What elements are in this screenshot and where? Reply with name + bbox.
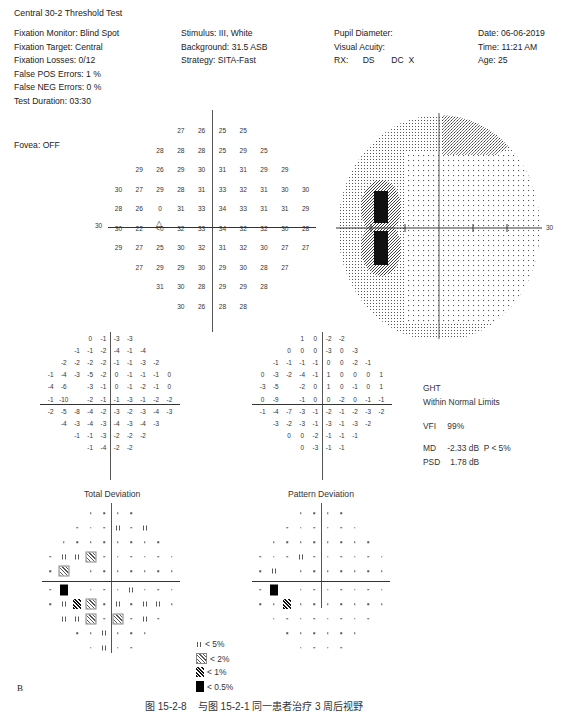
grid-value: 30: [274, 225, 296, 232]
p2-symbol-icon: [85, 551, 96, 562]
p5-symbol-icon: [74, 554, 80, 559]
grid-value: <0: [149, 225, 171, 232]
grid-value: 33: [191, 225, 213, 232]
grid-value: 31: [232, 166, 254, 173]
p2-symbol-icon: [58, 566, 69, 577]
grid-value: 27: [274, 264, 296, 271]
grid-value: 32: [253, 225, 275, 232]
normal-dot-icon: [354, 589, 356, 591]
normal-dot-icon: [117, 647, 119, 649]
normal-dot-icon: [341, 541, 343, 543]
grid-value: 1: [373, 383, 389, 390]
grid-value: 34: [211, 205, 233, 212]
p5-symbol-icon: [298, 554, 304, 559]
grid-value: 27: [295, 244, 317, 251]
grid-value: 29: [128, 166, 150, 173]
p05-symbol-icon: [270, 584, 278, 595]
greyscale-plot-icon: [336, 113, 542, 339]
normal-dot-icon: [260, 589, 262, 591]
normal-dot-icon: [144, 632, 146, 634]
normal-dot-icon: [117, 556, 119, 558]
grid-value: 33: [211, 186, 233, 193]
normal-dot-icon: [381, 556, 383, 558]
grid-value: 30: [170, 244, 192, 251]
normal-dot-icon: [77, 541, 79, 543]
normal-dot-icon: [314, 527, 316, 529]
figure-caption: 图 15-2-8 与图 15-2-1 同一患者治疗 3 周后视野: [145, 698, 363, 713]
normal-dot-icon: [327, 512, 329, 514]
normal-dot-icon: [158, 618, 160, 620]
normal-dot-icon: [171, 603, 173, 605]
p1-symbol-icon: [73, 599, 81, 609]
grid-value: 29: [253, 166, 275, 173]
normal-dot-icon: [273, 556, 275, 558]
p5-symbol-icon: [128, 587, 134, 592]
normal-dot-icon: [117, 632, 119, 634]
grid-value: 25: [232, 127, 254, 134]
legend-label: < 1%: [207, 667, 226, 677]
total-deviation-label: Total Deviation: [84, 489, 140, 499]
grid-value: 31: [211, 244, 233, 251]
grid-value: 25: [211, 127, 233, 134]
grid-value: -9: [268, 396, 284, 403]
td-horizontal-axis: [40, 404, 180, 405]
normal-dot-icon: [341, 527, 343, 529]
grid-value: -3: [161, 408, 177, 415]
normal-dot-icon: [77, 632, 79, 634]
grid-value: 1: [373, 371, 389, 378]
normal-dot-icon: [158, 589, 160, 591]
tdp-horizontal-axis: [42, 581, 180, 582]
grid-value: 31: [191, 186, 213, 193]
normal-dot-icon: [260, 603, 262, 605]
grid-value: 31: [170, 205, 192, 212]
p2-symbol-icon: [85, 599, 96, 610]
normal-dot-icon: [158, 541, 160, 543]
normal-dot-icon: [368, 541, 370, 543]
normal-dot-icon: [300, 647, 302, 649]
grid-value: 29: [232, 283, 254, 290]
normal-dot-icon: [104, 527, 106, 529]
grid-value: -1: [373, 396, 389, 403]
p2-symbol-icon: [112, 613, 123, 624]
normal-dot-icon: [354, 618, 356, 620]
p5-symbol-icon: [271, 569, 277, 574]
grid-value: -1: [360, 359, 376, 366]
vfi-label: VFI: [423, 421, 445, 431]
grid-value: -2: [334, 335, 350, 342]
normal-dot-icon: [104, 570, 106, 572]
normal-dot-icon: [327, 556, 329, 558]
p1-symbol-icon: [283, 599, 291, 609]
normal-dot-icon: [144, 589, 146, 591]
greyscale-axis-label: 30: [546, 224, 553, 231]
grid-value: 30: [191, 166, 213, 173]
normal-dot-icon: [273, 603, 275, 605]
normal-dot-icon: [131, 603, 133, 605]
normal-dot-icon: [287, 618, 289, 620]
normal-dot-icon: [287, 556, 289, 558]
grid-value: -2: [373, 408, 389, 415]
normal-dot-icon: [131, 512, 133, 514]
grid-value: 22: [128, 225, 150, 232]
grid-value: 28: [191, 147, 213, 154]
tdp-vertical-axis: [111, 503, 112, 653]
grid-value: 29: [295, 205, 317, 212]
normal-dot-icon: [287, 632, 289, 634]
grid-value: 30: [170, 283, 192, 290]
grid-value: 28: [232, 303, 254, 310]
normal-dot-icon: [131, 647, 133, 649]
grid-value: 26: [191, 127, 213, 134]
grid-value: 32: [232, 186, 254, 193]
legend-label: < 2%: [210, 654, 229, 664]
grid-value: 31: [274, 205, 296, 212]
normal-dot-icon: [90, 512, 92, 514]
normal-dot-icon: [50, 570, 52, 572]
normal-dot-icon: [341, 647, 343, 649]
grid-value: 30: [295, 186, 317, 193]
normal-dot-icon: [300, 589, 302, 591]
grid-value: 33: [232, 205, 254, 212]
grid-value: 0: [161, 371, 177, 378]
normal-dot-icon: [327, 527, 329, 529]
grid-value: -1: [334, 444, 350, 451]
grid-value: 34: [211, 225, 233, 232]
ght-value: Within Normal Limits: [423, 397, 511, 407]
